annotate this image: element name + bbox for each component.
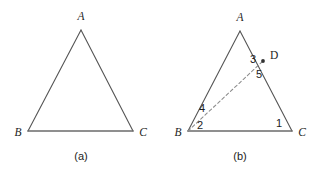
panel-a-segment-AC — [81, 30, 133, 131]
panel-b-angle-label-4: 4 — [199, 102, 205, 114]
panel-a-caption: (a) — [74, 150, 87, 162]
panel-b-vertex-label-A: A — [235, 11, 244, 23]
panel-a-vertex-label-C: C — [139, 126, 147, 138]
panel-b-point-D-marker — [261, 59, 265, 63]
panel-b-segment-AB — [188, 31, 240, 131]
panel-a-vertex-label-A: A — [76, 10, 85, 22]
panel-b-angle-label-5: 5 — [256, 68, 262, 80]
panel-b-vertex-label-C: C — [298, 126, 306, 138]
panel-b-vertex-label-B: B — [174, 126, 181, 138]
panel-b-triangle — [188, 31, 292, 131]
panel-b-angle-label-1: 1 — [276, 117, 282, 129]
panel-a-segment-AB — [28, 30, 81, 131]
panel-a-triangle — [28, 30, 133, 131]
panel-b-segment-AC — [240, 31, 292, 131]
panel-b-angle-label-2: 2 — [197, 119, 203, 131]
panel-b-angle-label-3: 3 — [250, 53, 256, 65]
diagram-canvas: A B C (a) A B C D 1 2 3 4 5 (b) — [0, 0, 313, 171]
panel-b-caption: (b) — [233, 150, 246, 162]
panel-a-vertex-label-B: B — [14, 126, 21, 138]
geometry-figure: A B C (a) A B C D 1 2 3 4 5 (b) — [0, 0, 313, 171]
panel-b-point-label-D: D — [270, 49, 278, 61]
